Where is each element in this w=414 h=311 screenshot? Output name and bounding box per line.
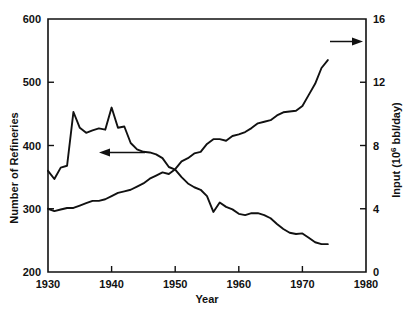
left-axis-title: Number of Refineries (8, 112, 20, 223)
left-tick-label-300: 300 (23, 203, 41, 215)
right-arrow-annotation (330, 38, 363, 46)
x-tick-label-1930: 1930 (36, 278, 60, 290)
left-arrow-head-icon (99, 149, 110, 157)
series-line-input (48, 60, 328, 211)
left-tick-label-200: 200 (23, 266, 41, 278)
right-axis-title-tail: bbl/day) (390, 102, 402, 148)
right-tick-label-4: 4 (373, 203, 380, 215)
x-tick-label-1940: 1940 (99, 278, 123, 290)
right-tick-label-12: 12 (373, 76, 385, 88)
left-tick-label-600: 600 (23, 13, 41, 25)
right-tick-label-8: 8 (373, 140, 379, 152)
left-axis-ticks (48, 82, 54, 209)
left-tick-label-500: 500 (23, 76, 41, 88)
plot-frame (48, 19, 366, 272)
x-axis-tick-labels: 193019401950196019701980 (36, 278, 378, 290)
x-axis-title: Year (195, 293, 219, 305)
right-axis-title-base: Input (10 (390, 152, 402, 198)
x-axis-ticks (112, 266, 303, 272)
left-axis-tick-labels: 200300400500600 (23, 13, 41, 278)
right-tick-label-0: 0 (373, 266, 379, 278)
right-axis-ticks (360, 82, 366, 209)
right-axis-title: Input (106 bbl/day) (389, 102, 402, 198)
series-line-number-of-refineries (48, 108, 328, 245)
chart-figure: 200300400500600 0481216 1930194019501960… (0, 0, 414, 311)
x-tick-label-1950: 1950 (163, 278, 187, 290)
x-tick-label-1960: 1960 (227, 278, 251, 290)
right-axis-tick-labels: 0481216 (373, 13, 385, 278)
right-arrow-head-icon (352, 38, 363, 46)
x-tick-label-1980: 1980 (354, 278, 378, 290)
right-tick-label-16: 16 (373, 13, 385, 25)
x-tick-label-1970: 1970 (290, 278, 314, 290)
left-tick-label-400: 400 (23, 140, 41, 152)
refineries-and-input-line-chart: 200300400500600 0481216 1930194019501960… (0, 0, 414, 311)
